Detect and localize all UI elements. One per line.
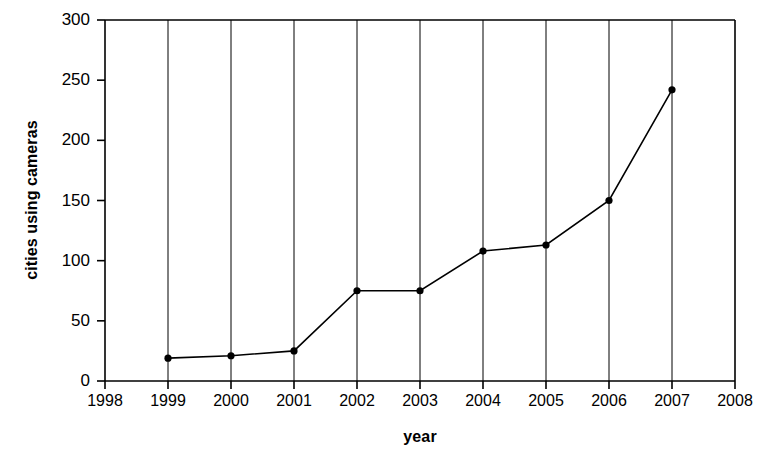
x-axis-ticks bbox=[105, 381, 735, 389]
x-tick-label: 2007 bbox=[637, 392, 707, 410]
data-point bbox=[164, 355, 171, 362]
data-point bbox=[353, 287, 360, 294]
x-tick-label: 2003 bbox=[385, 392, 455, 410]
x-tick-label: 2005 bbox=[511, 392, 581, 410]
data-point bbox=[227, 352, 234, 359]
data-point bbox=[542, 241, 549, 248]
data-point bbox=[416, 287, 423, 294]
x-tick-label: 2000 bbox=[196, 392, 266, 410]
x-tick-label: 2001 bbox=[259, 392, 329, 410]
x-tick-label: 2006 bbox=[574, 392, 644, 410]
data-point bbox=[290, 347, 297, 354]
data-point bbox=[605, 197, 612, 204]
x-tick-label: 1998 bbox=[70, 392, 140, 410]
vertical-gridlines bbox=[168, 20, 672, 381]
x-tick-label: 2008 bbox=[700, 392, 768, 410]
x-tick-label: 1999 bbox=[133, 392, 203, 410]
data-point bbox=[479, 247, 486, 254]
x-axis-title: year bbox=[105, 428, 735, 446]
y-axis-ticks bbox=[97, 20, 105, 381]
x-tick-label: 2004 bbox=[448, 392, 518, 410]
plot-area bbox=[0, 0, 768, 458]
data-point bbox=[668, 86, 675, 93]
line-chart: cities using cameras 050100150200250300 … bbox=[0, 0, 768, 458]
x-tick-label: 2002 bbox=[322, 392, 392, 410]
